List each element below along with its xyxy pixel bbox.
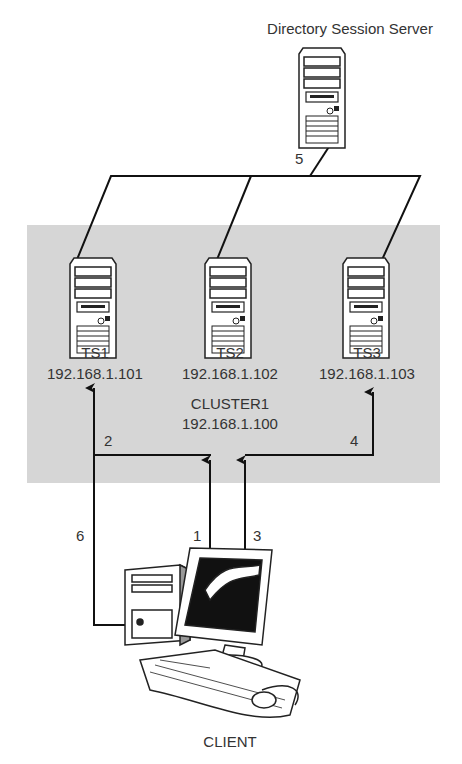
directory-server-icon	[299, 48, 345, 148]
step-2: 2	[104, 432, 112, 449]
directory-server-title: Directory Session Server	[240, 20, 460, 37]
server-name-ts1: TS1	[25, 344, 165, 361]
cluster-name: CLUSTER1	[160, 395, 300, 412]
step-3: 3	[253, 527, 261, 544]
step-1: 1	[193, 527, 201, 544]
server-ip-ts1: 192.168.1.101	[25, 365, 165, 382]
server-icon-ts1	[70, 258, 116, 358]
diagram-canvas	[0, 0, 462, 764]
cluster-ip: 192.168.1.100	[160, 415, 300, 432]
step-4: 4	[350, 432, 358, 449]
server-icon-ts3	[343, 258, 389, 358]
server-name-ts2: TS2	[160, 344, 300, 361]
client-computer-icon	[125, 548, 300, 717]
server-icon-ts2	[205, 258, 251, 358]
server-ip-ts2: 192.168.1.102	[160, 365, 300, 382]
server-name-ts3: TS3	[297, 344, 437, 361]
step-6: 6	[76, 527, 84, 544]
client-label: CLIENT	[160, 733, 300, 750]
step-5: 5	[295, 150, 303, 167]
server-ip-ts3: 192.168.1.103	[297, 365, 437, 382]
